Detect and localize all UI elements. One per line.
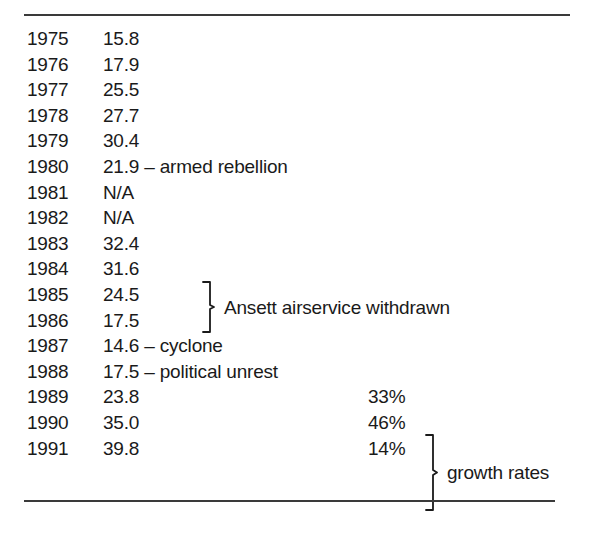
cell-year: 1990	[27, 410, 68, 436]
table-row: 1988 17.5 – political unrest	[0, 359, 594, 385]
table-row: 1981 N/A	[0, 180, 594, 206]
cell-value: N/A	[103, 205, 134, 231]
cell-value: 23.8	[103, 384, 139, 410]
table-row: 1984 31.6	[0, 256, 594, 282]
cell-year: 1988	[27, 359, 68, 385]
table-row: 1985 24.5	[0, 282, 594, 308]
brace-label-growth-rates: growth rates	[447, 463, 549, 482]
cell-year: 1980	[27, 154, 68, 180]
table-row: 1990 35.0 46%	[0, 410, 594, 436]
cell-value: 25.5	[103, 77, 139, 103]
cell-year: 1987	[27, 333, 68, 359]
cell-year: 1985	[27, 282, 68, 308]
cell-percent: 46%	[368, 410, 405, 436]
table-top-rule	[24, 14, 570, 16]
table-row: 1979 30.4	[0, 128, 594, 154]
cell-year: 1977	[27, 77, 68, 103]
table-row: 1989 23.8 33%	[0, 384, 594, 410]
cell-value: 17.5	[103, 308, 139, 334]
table-row: 1978 27.7	[0, 103, 594, 129]
cell-value: 39.8	[103, 436, 139, 462]
cell-year: 1976	[27, 52, 68, 78]
cell-year: 1982	[27, 205, 68, 231]
cell-year: 1989	[27, 384, 68, 410]
cell-value: 32.4	[103, 231, 139, 257]
table-row: 1976 17.9	[0, 52, 594, 78]
cell-value: 24.5	[103, 282, 139, 308]
table-row: 1991 39.8 14%	[0, 436, 594, 462]
cell-percent: 14%	[368, 436, 405, 462]
cell-value: 30.4	[103, 128, 139, 154]
cell-year: 1984	[27, 256, 68, 282]
cell-value: 21.9 – armed rebellion	[103, 154, 288, 180]
table-row: 1986 17.5	[0, 308, 594, 334]
cell-year: 1983	[27, 231, 68, 257]
table-row: 1982 N/A	[0, 205, 594, 231]
cell-value: 27.7	[103, 103, 139, 129]
data-table: 1975 15.8 1976 17.9 1977 25.5 1978 27.7 …	[0, 26, 594, 461]
cell-year: 1979	[27, 128, 68, 154]
document-page: 1975 15.8 1976 17.9 1977 25.5 1978 27.7 …	[0, 0, 594, 540]
cell-value: 15.8	[103, 26, 139, 52]
cell-year: 1986	[27, 308, 68, 334]
cell-value: 31.6	[103, 256, 139, 282]
cell-year: 1981	[27, 180, 68, 206]
cell-value: 17.5 – political unrest	[103, 359, 278, 385]
cell-year: 1975	[27, 26, 68, 52]
cell-value: 17.9	[103, 52, 139, 78]
table-row: 1975 15.8	[0, 26, 594, 52]
cell-value: 35.0	[103, 410, 139, 436]
table-bottom-rule	[24, 500, 555, 502]
cell-percent: 33%	[368, 384, 405, 410]
table-row: 1977 25.5	[0, 77, 594, 103]
cell-value: N/A	[103, 180, 134, 206]
table-row: 1983 32.4	[0, 231, 594, 257]
table-row: 1980 21.9 – armed rebellion	[0, 154, 594, 180]
table-row: 1987 14.6 – cyclone	[0, 333, 594, 359]
cell-year: 1991	[27, 436, 68, 462]
cell-year: 1978	[27, 103, 68, 129]
cell-value: 14.6 – cyclone	[103, 333, 223, 359]
